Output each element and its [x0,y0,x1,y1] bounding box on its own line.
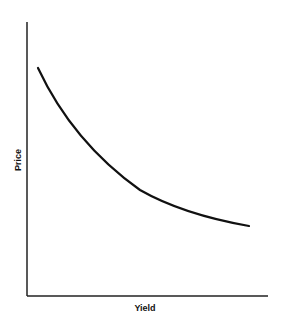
y-axis-label: Price [13,149,23,171]
price-yield-curve [38,68,249,226]
price-yield-chart: Yield Price [0,0,284,328]
x-axis-label: Yield [134,303,155,313]
